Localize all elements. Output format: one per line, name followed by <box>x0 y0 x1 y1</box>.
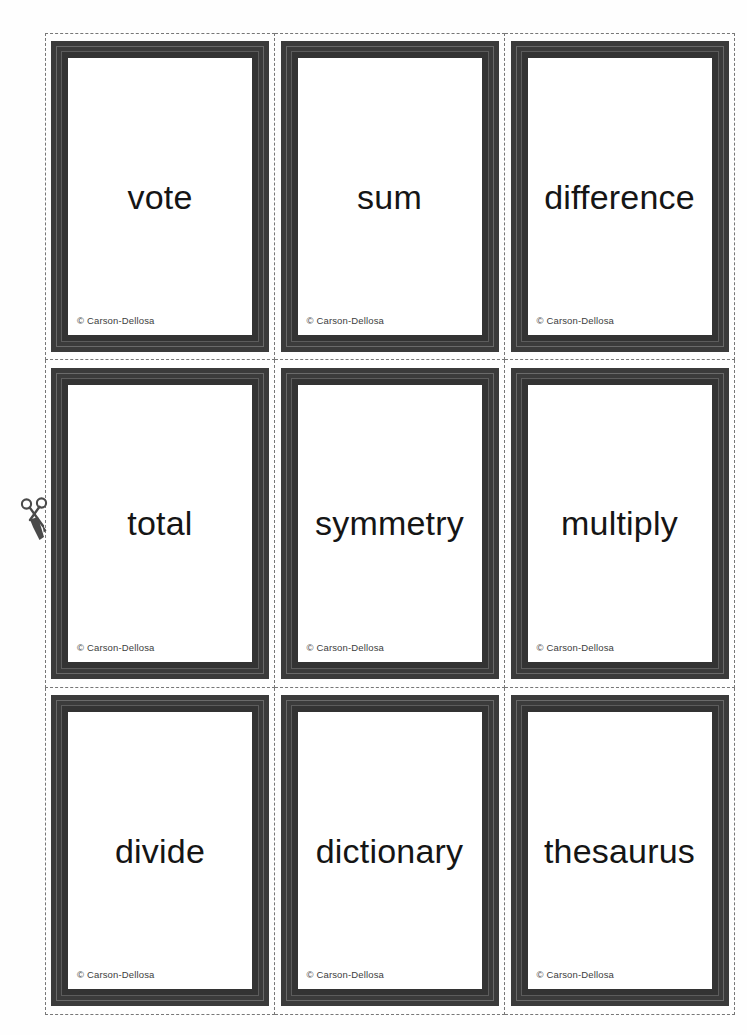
card-frame: divide © Carson-Dellosa <box>56 700 264 1001</box>
card-word: total <box>121 506 198 540</box>
card-face: symmetry © Carson-Dellosa <box>298 385 482 662</box>
card-face: multiply © Carson-Dellosa <box>528 385 712 662</box>
flashcard-sheet: vote © Carson-Dellosa sum © Carson-Dello… <box>0 0 747 1035</box>
card-frame-inner: total © Carson-Dellosa <box>61 378 259 669</box>
card-word: multiply <box>555 506 684 540</box>
card-frame: vote © Carson-Dellosa <box>56 46 264 347</box>
cut-cell: difference © Carson-Dellosa <box>505 33 735 360</box>
cut-cell: divide © Carson-Dellosa <box>45 688 275 1015</box>
card-face: divide © Carson-Dellosa <box>68 712 252 989</box>
card-copyright: © Carson-Dellosa <box>77 315 155 326</box>
flashcard[interactable]: thesaurus © Carson-Dellosa <box>511 695 729 1006</box>
card-frame: sum © Carson-Dellosa <box>286 46 494 347</box>
card-word: symmetry <box>309 506 470 540</box>
card-word: divide <box>109 834 211 868</box>
card-copyright: © Carson-Dellosa <box>537 315 615 326</box>
card-face: dictionary © Carson-Dellosa <box>298 712 482 989</box>
flashcard[interactable]: multiply © Carson-Dellosa <box>511 368 729 679</box>
card-face: vote © Carson-Dellosa <box>68 58 252 335</box>
card-frame-inner: symmetry © Carson-Dellosa <box>291 378 489 669</box>
card-frame: symmetry © Carson-Dellosa <box>286 373 494 674</box>
card-frame: dictionary © Carson-Dellosa <box>286 700 494 1001</box>
card-frame-inner: multiply © Carson-Dellosa <box>521 378 719 669</box>
cut-cell: symmetry © Carson-Dellosa <box>275 360 505 687</box>
card-word: sum <box>351 180 428 214</box>
cut-cell: total © Carson-Dellosa <box>45 360 275 687</box>
card-copyright: © Carson-Dellosa <box>537 642 615 653</box>
card-frame-inner: vote © Carson-Dellosa <box>61 51 259 342</box>
card-word: thesaurus <box>538 834 701 868</box>
cut-cell: dictionary © Carson-Dellosa <box>275 688 505 1015</box>
cut-grid: vote © Carson-Dellosa sum © Carson-Dello… <box>45 33 735 1015</box>
cut-cell: thesaurus © Carson-Dellosa <box>505 688 735 1015</box>
card-frame: total © Carson-Dellosa <box>56 373 264 674</box>
scissors-icon <box>19 493 53 543</box>
cut-cell: multiply © Carson-Dellosa <box>505 360 735 687</box>
card-word: dictionary <box>310 834 470 868</box>
flashcard[interactable]: divide © Carson-Dellosa <box>51 695 269 1006</box>
card-frame: thesaurus © Carson-Dellosa <box>516 700 724 1001</box>
card-face: sum © Carson-Dellosa <box>298 58 482 335</box>
card-word: vote <box>121 180 198 214</box>
cut-cell: sum © Carson-Dellosa <box>275 33 505 360</box>
flashcard[interactable]: difference © Carson-Dellosa <box>511 41 729 352</box>
cut-cell: vote © Carson-Dellosa <box>45 33 275 360</box>
card-frame-inner: thesaurus © Carson-Dellosa <box>521 705 719 996</box>
card-frame-inner: divide © Carson-Dellosa <box>61 705 259 996</box>
flashcard[interactable]: vote © Carson-Dellosa <box>51 41 269 352</box>
card-frame-inner: difference © Carson-Dellosa <box>521 51 719 342</box>
card-copyright: © Carson-Dellosa <box>307 315 385 326</box>
card-face: difference © Carson-Dellosa <box>528 58 712 335</box>
card-word: difference <box>538 180 701 214</box>
card-copyright: © Carson-Dellosa <box>77 969 155 980</box>
flashcard[interactable]: dictionary © Carson-Dellosa <box>281 695 499 1006</box>
flashcard[interactable]: total © Carson-Dellosa <box>51 368 269 679</box>
flashcard[interactable]: symmetry © Carson-Dellosa <box>281 368 499 679</box>
flashcard[interactable]: sum © Carson-Dellosa <box>281 41 499 352</box>
card-copyright: © Carson-Dellosa <box>307 642 385 653</box>
card-frame: multiply © Carson-Dellosa <box>516 373 724 674</box>
card-frame-inner: dictionary © Carson-Dellosa <box>291 705 489 996</box>
card-copyright: © Carson-Dellosa <box>77 642 155 653</box>
card-face: total © Carson-Dellosa <box>68 385 252 662</box>
card-frame: difference © Carson-Dellosa <box>516 46 724 347</box>
card-face: thesaurus © Carson-Dellosa <box>528 712 712 989</box>
card-copyright: © Carson-Dellosa <box>537 969 615 980</box>
card-frame-inner: sum © Carson-Dellosa <box>291 51 489 342</box>
card-copyright: © Carson-Dellosa <box>307 969 385 980</box>
